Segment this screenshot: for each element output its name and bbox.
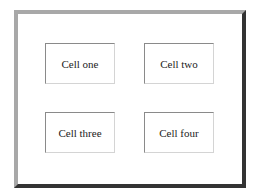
table-cell-one: Cell one (45, 43, 115, 84)
cell-label: Cell three (58, 127, 101, 139)
cell-label: Cell two (160, 58, 198, 70)
bordered-table: Cell one Cell two Cell three Cell four (14, 10, 246, 188)
table-cell-four: Cell four (144, 112, 214, 153)
table-cell-two: Cell two (144, 43, 214, 84)
table-cell-three: Cell three (45, 112, 115, 153)
cell-label: Cell four (159, 127, 198, 139)
cell-label: Cell one (62, 58, 99, 70)
